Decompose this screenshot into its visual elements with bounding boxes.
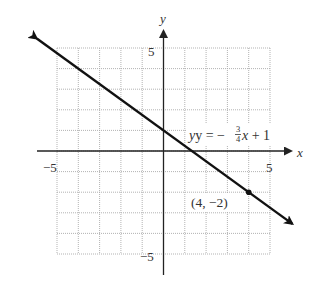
svg-text:x + 1: x + 1 [241,128,270,143]
equation-label: yy = − 3 4 x + 1 [186,123,282,145]
y-tick-min: −5 [140,249,154,264]
graph: y x −5 5 5 −5 yy = − 3 4 x + 1 (4, −2) [0,0,323,282]
x-tick-max: 5 [266,160,273,175]
svg-text:yy = −: yy = − [187,128,225,143]
eq-fraction-num: 3 [236,124,240,134]
point-4-neg2 [246,189,252,195]
y-axis-label: y [158,11,166,26]
x-tick-min: −5 [43,160,57,175]
x-axis-label: x [296,145,303,160]
point-label: (4, −2) [191,195,228,210]
y-tick-max: 5 [148,44,155,59]
